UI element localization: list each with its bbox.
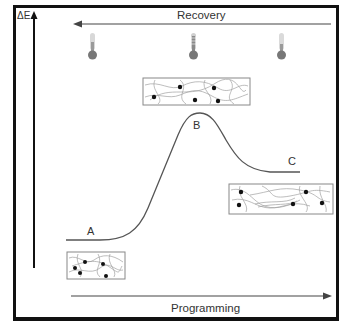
thermometer-icon-right bbox=[277, 33, 286, 60]
state-label-c: C bbox=[288, 156, 296, 167]
recovery-label: Recovery bbox=[177, 10, 226, 22]
thermometer-icon-center bbox=[189, 33, 198, 60]
polymer-network-state-c bbox=[229, 184, 333, 214]
programming-label: Programming bbox=[171, 303, 240, 315]
energy-curve bbox=[66, 113, 300, 240]
programming-arrow bbox=[71, 293, 332, 300]
y-axis-label: ΔE bbox=[17, 11, 30, 21]
recovery-arrow bbox=[73, 21, 331, 28]
thermometer-icon-left bbox=[88, 33, 97, 60]
state-label-b: B bbox=[193, 120, 200, 131]
polymer-network-state-b bbox=[143, 78, 250, 105]
state-label-a: A bbox=[87, 226, 94, 237]
polymer-network-state-a bbox=[67, 252, 125, 279]
y-axis bbox=[31, 11, 38, 268]
